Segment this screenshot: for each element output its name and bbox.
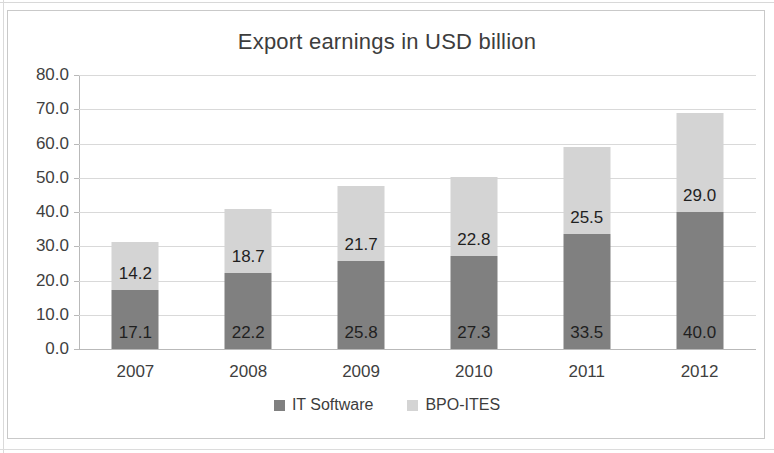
scan-artifact-bottom-edge — [0, 449, 774, 450]
bar-data-label: 33.5 — [563, 323, 610, 343]
bar-group: 18.722.22008 — [192, 75, 305, 349]
y-axis-label: 10.0 — [36, 305, 69, 325]
bar-group: 22.827.32010 — [418, 75, 531, 349]
bar-segment-it-software[interactable]: 27.3 — [450, 256, 497, 350]
bar-segment-bpo-ites[interactable]: 18.7 — [225, 209, 272, 273]
bar-segment-bpo-ites[interactable]: 14.2 — [112, 242, 159, 291]
stacked-bar[interactable]: 14.217.1 — [112, 242, 159, 349]
legend-item[interactable]: IT Software — [274, 396, 374, 414]
y-axis-label: 50.0 — [36, 168, 69, 188]
legend-label: BPO-ITES — [425, 396, 500, 414]
bar-segment-it-software[interactable]: 17.1 — [112, 290, 159, 349]
bar-data-label: 21.7 — [338, 235, 385, 255]
stacked-bar[interactable]: 25.533.5 — [563, 147, 610, 349]
bar-data-label: 22.2 — [225, 323, 272, 343]
bar-data-label: 27.3 — [450, 323, 497, 343]
bar-group: 21.725.82009 — [305, 75, 418, 349]
stacked-bar[interactable]: 21.725.8 — [338, 186, 385, 349]
square-marker-light — [407, 400, 418, 411]
bar-data-label: 22.8 — [450, 230, 497, 250]
plot-area: 80.070.060.050.040.030.020.010.00.0 14.2… — [79, 75, 756, 349]
y-axis-label: 70.0 — [36, 99, 69, 119]
x-axis-label: 2011 — [530, 362, 643, 382]
bar-data-label: 25.8 — [338, 323, 385, 343]
legend-item[interactable]: BPO-ITES — [407, 396, 500, 414]
bar-segment-it-software[interactable]: 33.5 — [563, 234, 610, 349]
chart-container: Export earnings in USD billion 80.070.06… — [7, 10, 765, 439]
bar-segment-bpo-ites[interactable]: 22.8 — [450, 177, 497, 255]
bar-segment-it-software[interactable]: 25.8 — [338, 261, 385, 349]
gridline — [79, 349, 756, 350]
bar-data-label: 14.2 — [112, 264, 159, 284]
scan-artifact-top-edge — [0, 2, 774, 3]
bar-data-label: 17.1 — [112, 323, 159, 343]
bar-data-label: 29.0 — [676, 186, 723, 206]
x-axis-label: 2012 — [643, 362, 756, 382]
bar-segment-bpo-ites[interactable]: 25.5 — [563, 147, 610, 234]
y-axis-label: 20.0 — [36, 271, 69, 291]
bar-segment-it-software[interactable]: 40.0 — [676, 212, 723, 349]
y-axis-label: 60.0 — [36, 134, 69, 154]
y-axis-tick — [74, 349, 79, 350]
chart-title: Export earnings in USD billion — [8, 29, 766, 55]
stacked-bar[interactable]: 29.040.0 — [676, 113, 723, 349]
bar-group: 25.533.52011 — [530, 75, 643, 349]
bar-data-label: 40.0 — [676, 323, 723, 343]
bar-data-label: 18.7 — [225, 247, 272, 267]
scan-artifact-left-edge — [3, 0, 4, 453]
chart-legend: IT SoftwareBPO-ITES — [8, 396, 766, 414]
bar-segment-bpo-ites[interactable]: 29.0 — [676, 113, 723, 212]
legend-label: IT Software — [292, 396, 374, 414]
x-axis-label: 2010 — [418, 362, 531, 382]
bar-segment-bpo-ites[interactable]: 21.7 — [338, 186, 385, 260]
x-axis-label: 2008 — [192, 362, 305, 382]
stacked-bar[interactable]: 18.722.2 — [225, 209, 272, 349]
bar-data-label: 25.5 — [563, 208, 610, 228]
x-axis-label: 2007 — [79, 362, 192, 382]
y-axis-label: 40.0 — [36, 202, 69, 222]
stacked-bar[interactable]: 22.827.3 — [450, 177, 497, 349]
x-axis-label: 2009 — [305, 362, 418, 382]
y-axis-label: 80.0 — [36, 65, 69, 85]
bar-group: 14.217.12007 — [79, 75, 192, 349]
bar-group: 29.040.02012 — [643, 75, 756, 349]
bar-segment-it-software[interactable]: 22.2 — [225, 273, 272, 349]
y-axis-label: 30.0 — [36, 236, 69, 256]
square-marker-dark — [274, 400, 285, 411]
y-axis-label: 0.0 — [45, 339, 69, 359]
